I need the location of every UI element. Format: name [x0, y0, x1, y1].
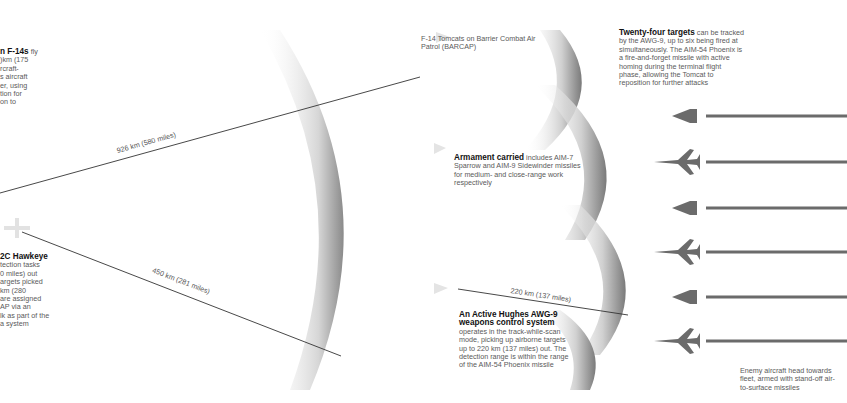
hawkeye-aircraft-icon	[4, 218, 30, 238]
enemy-aircraft-2	[654, 149, 847, 175]
enemy-caption: Enemy aircraft head towards fleet, armed…	[740, 367, 835, 392]
enemy-aircraft-5	[672, 290, 847, 304]
enemy-aircraft-6	[654, 328, 847, 354]
awg9-title: An Active Hughes AWG-9 weapons control s…	[459, 310, 558, 327]
enemy-aircraft-3	[672, 201, 847, 215]
targets-callout: Twenty-four targets can be tracked by th…	[619, 29, 744, 88]
f14-marker-icons	[434, 32, 450, 294]
f14-callout: n F-14s fly )km (175 rcraft- s aircraft …	[0, 48, 60, 107]
enemy-aircraft-1	[672, 109, 847, 123]
hawkeye-callout: 2C Hawkeye tection tasks 0 miles) out ar…	[0, 253, 70, 329]
enemy-aircraft-4	[654, 239, 847, 265]
range-line-926km	[0, 77, 420, 193]
awg9-callout: An Active Hughes AWG-9 weapons control s…	[459, 311, 574, 370]
radar-range-arc-large	[260, 30, 344, 390]
enemy-aircraft-formation	[654, 109, 847, 354]
armament-callout: Armament carried includes AIM-7 Sparrow …	[454, 154, 584, 188]
barcap-caption: F-14 Tomcats on Barrier Combat Air Patro…	[421, 35, 546, 52]
